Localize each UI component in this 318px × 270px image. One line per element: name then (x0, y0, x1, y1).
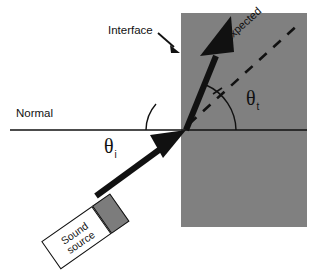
theta-incident-label: θi (104, 136, 116, 156)
theta-transmitted-symbol: θ (246, 87, 256, 109)
interface-pointer-arrowhead (170, 45, 180, 53)
normal-label: Normal (16, 108, 53, 120)
interface-label: Interface (108, 25, 153, 37)
medium-block (181, 13, 307, 227)
interface-pointer-shaft (158, 33, 174, 47)
angle-incidence-arc (146, 104, 156, 130)
theta-incident-subscript: i (115, 149, 117, 160)
theta-incident-symbol: θ (104, 135, 114, 157)
theta-transmitted-label: θt (246, 88, 258, 108)
theta-transmitted-subscript: t (257, 101, 260, 112)
